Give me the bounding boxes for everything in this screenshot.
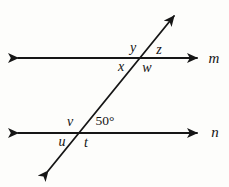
- angle-label-y: y: [128, 40, 137, 55]
- line-label-n: n: [211, 124, 219, 140]
- angle-label-v: v: [67, 114, 74, 129]
- angle-label-w: w: [142, 60, 152, 75]
- angle-label-z: z: [155, 42, 162, 57]
- angle-measure-50deg: 50°: [96, 113, 115, 128]
- geometry-figure: y z x w v 50° u t m n: [0, 0, 229, 187]
- parallel-lines-transversal-diagram: y z x w v 50° u t m n: [0, 0, 229, 187]
- angle-label-u: u: [59, 134, 66, 149]
- line-label-m: m: [209, 50, 220, 66]
- angle-label-t: t: [84, 135, 89, 150]
- angle-label-x: x: [117, 59, 125, 74]
- transversal-line: [48, 16, 174, 171]
